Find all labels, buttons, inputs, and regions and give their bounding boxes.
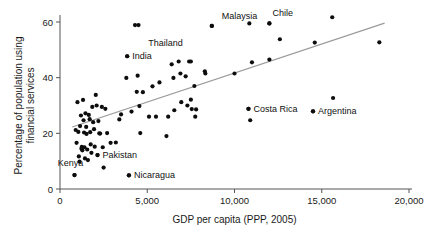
data-point [92, 127, 96, 131]
data-point [91, 120, 95, 124]
data-point-labeled [72, 173, 76, 177]
data-point [86, 158, 90, 162]
data-point [192, 84, 196, 88]
data-point [331, 96, 335, 100]
x-axis-title: GDP per capita (PPP, 2005) [172, 214, 296, 225]
data-point-labeled [95, 153, 99, 157]
data-point [85, 147, 89, 151]
point-label-kenya: Kenya [58, 158, 84, 168]
data-point [87, 113, 91, 117]
scatter-chart-figure: 020406005,00010,00015,00020,000 Malaysia… [0, 0, 424, 235]
y-tick-label: 0 [48, 184, 53, 195]
chart-canvas: 020406005,00010,00015,00020,000 Malaysia… [0, 0, 424, 235]
data-point [93, 145, 97, 149]
data-point [184, 74, 188, 78]
data-point-labeled [311, 109, 315, 113]
data-point [136, 74, 140, 78]
point-label-pakistan: Pakistan [103, 150, 138, 160]
axes-layer: 020406005,00010,00015,00020,000 [42, 15, 423, 206]
y-tick-label: 60 [42, 17, 53, 28]
data-point [150, 84, 154, 88]
point-label-argentina: Argentina [318, 106, 357, 116]
data-point [190, 107, 194, 111]
data-point [75, 100, 79, 104]
data-point [94, 93, 98, 97]
data-point [250, 60, 254, 64]
data-point [177, 59, 181, 63]
data-point [166, 115, 170, 119]
data-point [114, 140, 118, 144]
y-tick-label: 20 [42, 128, 53, 139]
x-tick-label: 20,000 [394, 195, 423, 206]
data-point-labeled [210, 24, 214, 28]
data-point [101, 145, 105, 149]
data-point [95, 103, 99, 107]
data-point [193, 115, 197, 119]
data-point-labeled [127, 173, 131, 177]
data-point [267, 57, 271, 61]
data-point [103, 107, 107, 111]
data-point [84, 132, 88, 136]
data-point-labeled [267, 21, 271, 25]
data-point [96, 119, 100, 123]
data-point [179, 100, 183, 104]
data-point [157, 80, 161, 84]
data-point [109, 141, 113, 145]
data-point [278, 37, 282, 41]
x-tick-label: 10,000 [220, 195, 249, 206]
data-point-labeled [246, 107, 250, 111]
point-label-chile: Chile [272, 8, 293, 18]
data-point [330, 15, 334, 19]
y-axis-title: Percentage of population usingfinancial … [13, 37, 36, 175]
point-label-malaysia: Malaysia [222, 11, 258, 21]
data-point [170, 62, 174, 66]
data-point [88, 117, 92, 121]
data-point [74, 141, 78, 145]
data-point [98, 132, 102, 136]
data-point [89, 151, 93, 155]
data-point [81, 98, 85, 102]
data-point [232, 71, 236, 75]
data-point [76, 130, 80, 134]
data-point [119, 112, 123, 116]
data-point [141, 90, 145, 94]
x-tick-label: 5,000 [135, 195, 159, 206]
data-point [203, 71, 207, 75]
data-point [135, 90, 139, 94]
point-label-costa-rica: Costa Rica [253, 104, 297, 114]
data-point [189, 98, 193, 102]
data-point-labeled [189, 59, 193, 63]
data-point [247, 21, 251, 25]
data-point [124, 76, 128, 80]
data-point [84, 125, 88, 129]
data-point-labeled [125, 54, 129, 58]
data-point [89, 142, 93, 146]
point-label-nicaragua: Nicaragua [134, 170, 175, 180]
x-tick-label: 15,000 [307, 195, 336, 206]
data-point [129, 110, 133, 114]
point-label-thailand: Thailand [148, 38, 183, 48]
data-point [377, 40, 381, 44]
y-axis-title-line: Percentage of population using [13, 37, 24, 175]
data-point [147, 115, 151, 119]
data-point [88, 130, 92, 134]
y-axis-title-line: financial services [25, 67, 36, 143]
data-point [81, 118, 85, 122]
data-point [194, 107, 198, 111]
data-point [90, 105, 94, 109]
data-point [136, 23, 140, 27]
data-point [164, 134, 168, 138]
data-point [102, 165, 106, 169]
data-point [117, 117, 121, 121]
data-point [171, 76, 175, 80]
y-tick-label: 40 [42, 72, 53, 83]
x-tick-label: 0 [57, 195, 62, 206]
data-point [137, 104, 141, 108]
data-point [248, 118, 252, 122]
data-point [154, 115, 158, 119]
data-point [105, 131, 109, 135]
data-point [313, 40, 317, 44]
data-point [79, 113, 83, 117]
data-point [178, 71, 182, 75]
point-annotations-layer: MalaysiaThailandChileIndiaCosta RicaArge… [58, 8, 357, 180]
